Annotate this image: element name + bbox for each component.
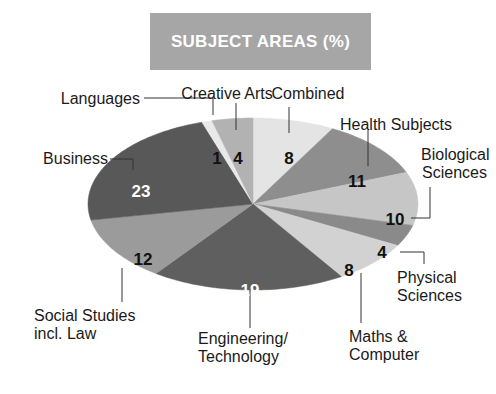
value-maths: 8 [344, 261, 353, 280]
value-social: 12 [134, 250, 153, 269]
value-creative-arts: 4 [233, 149, 243, 168]
label-combined: Combined [272, 85, 345, 102]
value-physical: 4 [377, 243, 387, 262]
label-social-2: incl. Law [34, 325, 97, 342]
label-maths-2: Computer [349, 346, 420, 363]
label-engineering-2: Technology [198, 348, 279, 365]
label-biological-1: Biological [421, 146, 489, 163]
value-business: 23 [132, 182, 151, 201]
label-creative-arts: Creative Arts [181, 85, 273, 102]
pie-chart: 8 11 10 4 8 19 12 23 1 4 Creative Arts C… [0, 0, 496, 394]
value-health: 11 [348, 172, 366, 191]
value-combined: 8 [284, 149, 293, 168]
label-physical-2: Sciences [397, 287, 462, 304]
leader-physical [400, 252, 424, 264]
label-physical-1: Physical [397, 269, 457, 286]
label-engineering-1: Engineering/ [198, 330, 288, 347]
value-biological: 10 [386, 210, 405, 229]
label-social-1: Social Studies [34, 307, 135, 324]
label-maths-1: Maths & [349, 328, 408, 345]
label-biological-2: Sciences [422, 164, 487, 181]
value-languages: 1 [212, 149, 221, 168]
label-business: Business [43, 150, 108, 167]
label-languages: Languages [61, 90, 140, 107]
value-engineering: 19 [241, 281, 260, 300]
label-health: Health Subjects [340, 116, 452, 133]
